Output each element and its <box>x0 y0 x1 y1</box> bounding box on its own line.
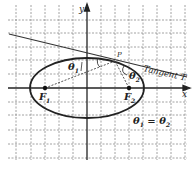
theta1-label: θ1 <box>68 61 79 74</box>
grid <box>8 5 187 160</box>
focus-f1-point <box>43 86 47 90</box>
tangent-label: Tangent T <box>143 63 189 83</box>
ellipse-reflection-diagram: y x P θ1 θ2 Tangent T F1 F2 θ1 = θ2 <box>0 0 192 177</box>
theta2-label: θ2 <box>129 70 140 83</box>
ray-f1-to-p <box>45 61 115 88</box>
focus-f2-point <box>127 86 131 90</box>
y-axis-arrow-icon <box>85 4 90 11</box>
axes <box>8 4 190 160</box>
angle-theta2-arc <box>123 66 127 75</box>
point-p-label: P <box>116 51 122 59</box>
y-axis-label: y <box>78 4 85 14</box>
x-axis-label: x <box>182 89 187 99</box>
theta1-pointer <box>81 62 82 71</box>
angle-equality-equation: θ1 = θ2 <box>133 115 170 128</box>
